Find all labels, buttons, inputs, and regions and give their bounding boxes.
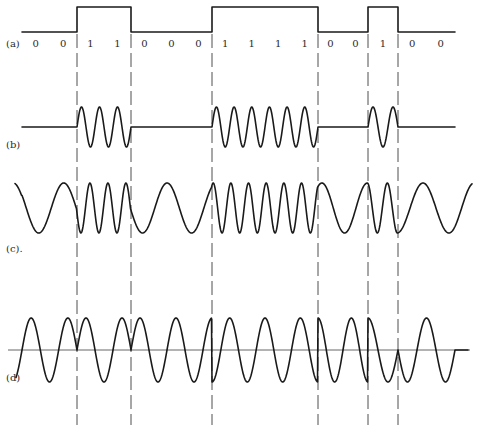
panel-d-psk-signal: (d) [6, 318, 470, 383]
bit-label: 0 [168, 38, 174, 49]
bit-label: 0 [141, 38, 147, 49]
bit-label: 0 [409, 38, 415, 49]
binary-data-waveform [22, 7, 455, 32]
panel-b-label: (b) [6, 139, 20, 150]
bit-label: 0 [327, 38, 333, 49]
bit-label: 1 [114, 38, 120, 49]
bit-label: 0 [33, 38, 39, 49]
bit-label: 1 [302, 38, 308, 49]
bit-label: 1 [275, 38, 281, 49]
panel-c-fsk-signal: (c). [6, 183, 472, 254]
bit-label: 0 [438, 38, 444, 49]
bit-label: 1 [380, 38, 386, 49]
modulation-diagram: (a) 0011000111100100 (b) (c). (d) [0, 0, 480, 436]
panel-d-label: (d) [6, 372, 20, 383]
bit-label: 0 [195, 38, 201, 49]
bit-label: 0 [352, 38, 358, 49]
modulation-figure: (a) 0011000111100100 (b) (c). (d) [0, 0, 480, 436]
panel-b-ask-signal: (b) [6, 107, 455, 150]
bit-label: 0 [60, 38, 66, 49]
panel-a-label: (a) [6, 38, 20, 49]
bit-label: 1 [222, 38, 228, 49]
panel-a-binary-data: (a) 0011000111100100 [6, 7, 455, 49]
ask-waveform [22, 107, 455, 147]
fsk-waveform [15, 183, 472, 233]
bit-label: 1 [87, 38, 93, 49]
bit-labels: 0011000111100100 [33, 38, 444, 49]
panel-c-label: (c). [6, 243, 23, 254]
bit-label: 1 [249, 38, 255, 49]
